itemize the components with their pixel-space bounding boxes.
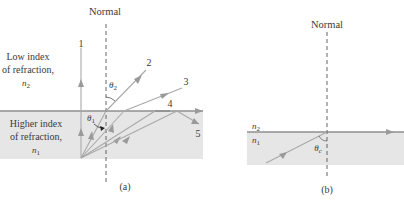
theta-2-label: θ2 (109, 80, 117, 92)
upper-medium-label-line1: Low index (6, 51, 49, 62)
theta-2-arc (106, 97, 115, 101)
ray-3-label: 3 (184, 76, 189, 87)
lower-medium-label-line2: of refraction, (10, 131, 62, 142)
upper-index-label-b: n2 (252, 121, 261, 133)
dense-medium-region-b (247, 132, 404, 165)
ray-1-label: 1 (79, 38, 84, 49)
upper-medium-index: n2 (22, 78, 31, 90)
refraction-diagram: Normal Low index of refraction, n2 Highe… (0, 0, 404, 200)
ray-2-label: 2 (147, 57, 152, 68)
panel-a-caption: (a) (119, 181, 130, 193)
normal-label: Normal (89, 6, 121, 17)
panel-b: Normal n2 n1 θc (b) (247, 19, 404, 196)
panel-a: Normal Low index of refraction, n2 Highe… (0, 6, 203, 193)
panel-b-caption: (b) (321, 184, 333, 196)
ray-4-label: 4 (168, 98, 173, 109)
lower-medium-label-line1: Higher index (10, 118, 63, 129)
ray-5-label: 5 (196, 128, 201, 139)
upper-medium-label-line2: of refraction, (2, 64, 54, 75)
normal-label-b: Normal (311, 19, 343, 30)
